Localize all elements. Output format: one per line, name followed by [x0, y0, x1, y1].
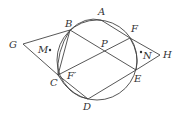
- label-b: B: [64, 18, 72, 29]
- geometry-diagram: A B G M P F H N C F′ E D: [0, 0, 182, 120]
- label-e: E: [133, 73, 142, 84]
- arc-ba: [70, 19, 101, 30]
- label-d: D: [82, 101, 91, 112]
- segment-af: [101, 20, 130, 38]
- label-f-prime: F′: [66, 70, 77, 81]
- label-g: G: [9, 39, 17, 50]
- point-m-dot: [49, 49, 51, 51]
- label-h: H: [162, 49, 172, 60]
- segment-gb: [23, 30, 70, 44]
- label-f: F: [130, 23, 139, 34]
- label-m: M: [37, 44, 49, 55]
- label-c: C: [50, 77, 58, 88]
- label-n: N: [142, 50, 153, 61]
- label-a: A: [97, 6, 105, 17]
- point-n-dot: [140, 51, 142, 53]
- label-p: P: [100, 38, 108, 49]
